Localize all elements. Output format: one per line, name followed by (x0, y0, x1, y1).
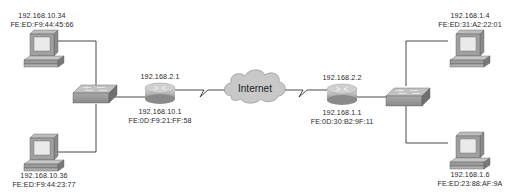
host-mac: FE:ED:23:88:AF:9A (430, 179, 509, 188)
router-left-lan-label: 192.168.10.1 FE:0D:F9:21:FF:58 (120, 107, 200, 125)
pc-top-left-icon[interactable] (24, 30, 64, 67)
router-mac: FE:0D:F9:21:FF:58 (120, 116, 200, 125)
router-mac: FE:0D:30:B2:9F:11 (302, 117, 382, 126)
router-right-wan-ip: 192.168.2.2 (312, 73, 372, 82)
host-ip: 192.168.1.4 (430, 11, 509, 20)
router-right-icon[interactable] (327, 84, 357, 105)
router-right-lan-label: 192.168.1.1 FE:0D:30:B2:9F:11 (302, 108, 382, 126)
cloud-label: Internet (238, 83, 272, 94)
host-label-top-right: 192.168.1.4 FE:ED:31:A2:22:01 (430, 11, 509, 29)
host-ip: 192.168.10.34 (2, 11, 82, 20)
host-label-bottom-left: 192.168.10.36 FE:ED:F9:44:23:77 (4, 171, 84, 189)
switch-right-icon[interactable] (386, 88, 430, 106)
router-lan-ip: 192.168.1.1 (302, 108, 382, 117)
host-mac: FE:ED:31:A2:22:01 (430, 20, 509, 29)
host-mac: FE:ED:F9:44:23:77 (4, 180, 84, 189)
host-label-top-left: 192.168.10.34 FE:ED:F9:44:45:66 (2, 11, 82, 29)
router-left-icon[interactable] (145, 83, 175, 104)
internet-cloud-icon[interactable]: Internet (224, 70, 285, 103)
pc-bottom-left-icon[interactable] (24, 134, 64, 171)
router-lan-ip: 192.168.10.1 (120, 107, 200, 116)
host-mac: FE:ED:F9:44:45:66 (2, 20, 82, 29)
switch-left-icon[interactable] (73, 85, 117, 103)
router-left-wan-ip: 192.168.2.1 (130, 72, 190, 81)
pc-top-right-icon[interactable] (450, 30, 490, 67)
host-label-bottom-right: 192.168.1.6 FE:ED:23:88:AF:9A (430, 170, 509, 188)
host-ip: 192.168.10.36 (4, 171, 84, 180)
host-ip: 192.168.1.6 (430, 170, 509, 179)
pc-bottom-right-icon[interactable] (450, 132, 490, 169)
